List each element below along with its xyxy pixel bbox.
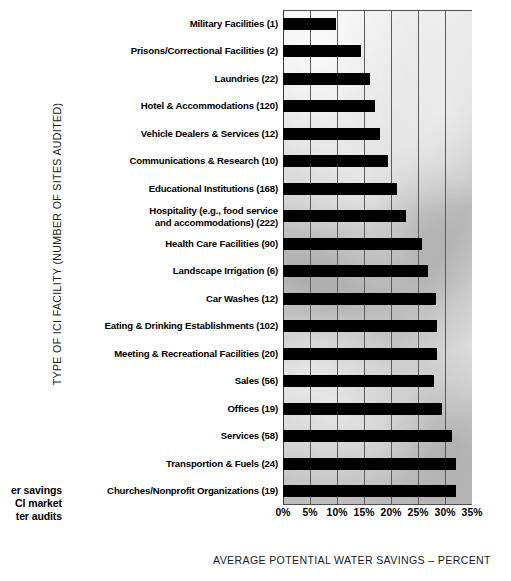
bar [283, 485, 456, 497]
category-label: Transportion & Fuels (24) [96, 458, 278, 469]
category-label: Services (58) [96, 431, 278, 442]
x-tick-label-10pct: 10% [327, 507, 348, 518]
bar [283, 458, 456, 470]
x-tick-label-0pct: 0% [275, 507, 290, 518]
caption-line: CI market [0, 497, 62, 510]
figure-caption: er savingsCI marketter audits [0, 484, 62, 524]
category-label: Educational Institutions (168) [96, 183, 278, 194]
category-label-column: Military Facilities (1)Prisons/Correctio… [96, 10, 278, 505]
category-label-line: Prisons/Correctional Facilities (2) [96, 46, 278, 57]
bar [283, 128, 380, 140]
bar [283, 403, 442, 415]
category-label: Prisons/Correctional Facilities (2) [96, 46, 278, 57]
x-axis-title: AVERAGE POTENTIAL WATER SAVINGS – PERCEN… [213, 554, 503, 566]
category-label-line: Offices (19) [96, 403, 278, 414]
category-label-line: Laundries (22) [96, 73, 278, 84]
category-label-line: Services (58) [96, 431, 278, 442]
category-label: Hospitality (e.g., food serviceand accom… [96, 205, 278, 228]
bar [283, 73, 370, 85]
category-label: Meeting & Recreational Facilities (20) [96, 348, 278, 359]
x-tick-label-5pct: 5% [302, 507, 317, 518]
caption-line: er savings [0, 484, 62, 497]
bar [283, 348, 437, 360]
category-label: Car Washes (12) [96, 293, 278, 304]
category-label-line: and accommodations) (222) [96, 216, 278, 227]
category-label-line: Educational Institutions (168) [96, 183, 278, 194]
category-label: Vehicle Dealers & Services (12) [96, 128, 278, 139]
category-label: Sales (56) [96, 376, 278, 387]
y-axis-title: TYPE OF ICI FACILITY (NUMBER OF SITES AU… [51, 99, 63, 389]
x-tick-label-20pct: 20% [381, 507, 402, 518]
x-axis-tick-labels: 0%5%10%15%20%25%30%35% [283, 507, 478, 523]
category-label-line: Hotel & Accommodations (120) [96, 101, 278, 112]
category-label-line: Churches/Nonprofit Organizations (19) [96, 486, 278, 497]
category-label-line: Car Washes (12) [96, 293, 278, 304]
category-label-line: Sales (56) [96, 376, 278, 387]
category-label-line: Meeting & Recreational Facilities (20) [96, 348, 278, 359]
bar [283, 375, 434, 387]
bar [283, 320, 437, 332]
category-label-line: Vehicle Dealers & Services (12) [96, 128, 278, 139]
category-label-line: Transportion & Fuels (24) [96, 458, 278, 469]
category-label: Military Facilities (1) [96, 18, 278, 29]
x-tick-label-15pct: 15% [354, 507, 375, 518]
category-label: Eating & Drinking Establishments (102) [96, 321, 278, 332]
category-label: Hotel & Accommodations (120) [96, 101, 278, 112]
category-label: Offices (19) [96, 403, 278, 414]
category-label: Laundries (22) [96, 73, 278, 84]
category-label: Communications & Research (10) [96, 156, 278, 167]
category-label: Churches/Nonprofit Organizations (19) [96, 486, 278, 497]
category-label-line: Landscape Irrigation (6) [96, 266, 278, 277]
bar [283, 155, 388, 167]
x-tick-label-30pct: 30% [435, 507, 456, 518]
category-label-line: Communications & Research (10) [96, 156, 278, 167]
bar [283, 210, 406, 222]
category-label-line: Eating & Drinking Establishments (102) [96, 321, 278, 332]
category-label-line: Health Care Facilities (90) [96, 238, 278, 249]
caption-line: ter audits [0, 510, 62, 523]
bar [283, 293, 436, 305]
bar [283, 265, 428, 277]
bar [283, 183, 397, 195]
category-label-line: Hospitality (e.g., food service [96, 205, 278, 216]
bar [283, 18, 336, 30]
bar [283, 238, 422, 250]
bar [283, 45, 361, 57]
figure-bar-chart: er savingsCI marketter audits TYPE OF IC… [0, 0, 511, 581]
category-label-line: Military Facilities (1) [96, 18, 278, 29]
x-tick-label-25pct: 25% [408, 507, 429, 518]
bar [283, 100, 375, 112]
category-label: Landscape Irrigation (6) [96, 266, 278, 277]
plot-area [283, 10, 472, 505]
x-tick-label-35pct: 35% [462, 507, 483, 518]
bar [283, 430, 452, 442]
category-label: Health Care Facilities (90) [96, 238, 278, 249]
